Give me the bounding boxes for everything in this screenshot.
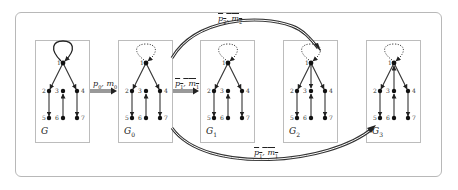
transition-label-p0-m0: p0, m0 [93, 79, 117, 90]
transition-label-p2-m2: p2, m2 [218, 14, 242, 25]
graph-g3 [373, 44, 416, 121]
graph-g2 [290, 44, 333, 121]
transition-g0-g2 [172, 20, 321, 58]
graph-g1 [207, 44, 250, 121]
transition-label-p1-m1: p1, m1 [175, 79, 199, 90]
graph-drawing: 1 2 3 4 5 6 7 [0, 0, 458, 190]
graph-g [42, 41, 85, 121]
diagram-canvas: G G0 G1 G2 G3 [0, 0, 458, 190]
transition-label-p1-m1-bottom: p1, m1 [254, 148, 278, 159]
graph-g0 [125, 44, 168, 121]
